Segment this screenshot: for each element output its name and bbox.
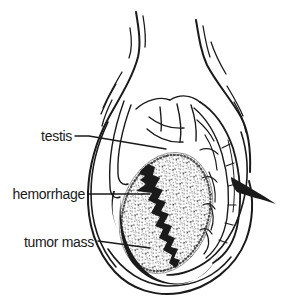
- scrotal-fold-spike: [231, 177, 276, 204]
- illustration-linework: [0, 0, 292, 303]
- epididymis-head: [170, 96, 200, 102]
- label-tumor-mass: tumor mass: [24, 234, 94, 250]
- tunica-fold-left-1: [118, 105, 131, 184]
- medical-illustration: testis hemorrhage tumor mass: [0, 0, 292, 303]
- cord-hatching: [101, 16, 246, 132]
- testis-upper-pole: [136, 98, 170, 109]
- label-testis: testis: [41, 128, 72, 144]
- label-hemorrhage: hemorrhage: [13, 186, 86, 202]
